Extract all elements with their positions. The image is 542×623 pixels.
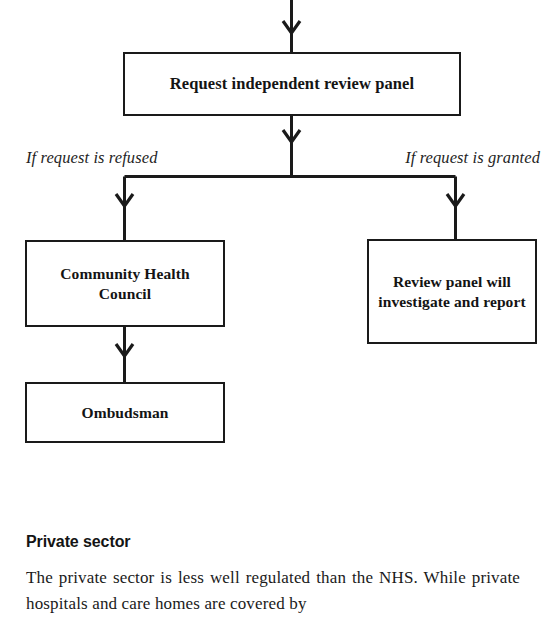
arrowhead-left-branch	[116, 194, 133, 206]
node-review-panel-will-investigate-and-report: Review panel will investigate and report	[367, 239, 537, 344]
arrowhead-request-panel-down	[283, 130, 300, 142]
section-heading-private-sector: Private sector	[26, 533, 520, 551]
private-sector-text-section: Private sector The private sector is les…	[26, 533, 520, 617]
node-community-health-council: Community Health Council	[25, 240, 225, 327]
arrowhead-incoming	[283, 21, 300, 33]
node-request-independent-review-panel: Request independent review panel	[123, 52, 461, 116]
section-body-paragraph: The private sector is less well regulate…	[26, 565, 520, 617]
flowchart-diagram: Request independent review panel If requ…	[0, 0, 542, 470]
branch-label-if-request-is-refused: If request is refused	[26, 148, 157, 168]
node-ombudsman: Ombudsman	[25, 382, 225, 443]
arrowhead-chc-to-ombudsman	[116, 344, 133, 356]
arrowhead-right-branch	[447, 194, 464, 206]
branch-label-if-request-is-granted: If request is granted	[405, 148, 540, 168]
